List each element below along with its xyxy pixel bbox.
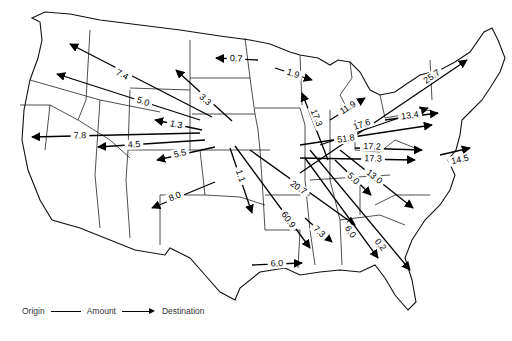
legend-arrow-icon [122, 311, 150, 312]
flow-arrow: 0.2 [310, 150, 410, 270]
flow-amount-label: 14.5 [450, 153, 469, 167]
flow-arrow: 17.3 [300, 153, 415, 164]
flow-arrow: 4.5 [98, 139, 205, 150]
legend-origin: Origin [22, 306, 45, 316]
flow-amount-label: 6.0 [271, 258, 284, 268]
flow-arrow: 0.7 [216, 53, 258, 64]
legend-amount: Amount [87, 306, 116, 316]
flow-amount-label: 51.8 [336, 132, 355, 145]
flow-arrow: 17.3 [302, 93, 328, 160]
legend-line [51, 311, 81, 312]
us-flow-map: 0.77.43.35.01.37.84.55.58.01.160.920.77.… [0, 0, 512, 341]
flow-amount-label: 1.3 [169, 118, 183, 130]
flow-amount-label: 4.5 [127, 139, 140, 150]
flow-arrow: 14.5 [440, 148, 473, 167]
flow-amount-label: 5.5 [173, 147, 187, 159]
flow-arrow: 7.8 [32, 130, 200, 141]
flow-arrow: 1.3 [155, 118, 202, 132]
flow-amount-label: 7.8 [74, 130, 87, 140]
flow-arrows: 0.77.43.35.01.37.84.55.58.01.160.920.77.… [32, 44, 473, 270]
flow-arrow: 6.0 [252, 258, 302, 269]
flow-arrow: 5.0 [335, 160, 371, 195]
flow-amount-label: 0.7 [230, 53, 243, 64]
legend: Origin Amount Destination [22, 306, 205, 316]
flow-arrow: 11.9 [330, 97, 365, 120]
flow-arrow: 7.3 [305, 218, 332, 242]
flow-amount-label: 17.3 [364, 153, 382, 163]
flow-amount-label: 17.2 [363, 141, 381, 152]
flow-arrow: 1.9 [275, 66, 312, 81]
flow-arrow: 1.1 [230, 148, 252, 213]
flow-arrow: 5.5 [157, 146, 215, 160]
legend-destination: Destination [162, 306, 205, 316]
